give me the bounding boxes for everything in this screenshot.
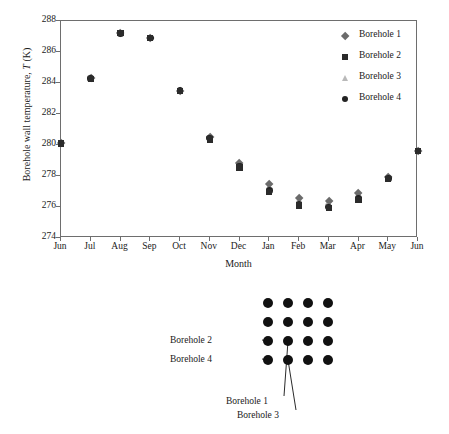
y-tick-label: 286	[30, 46, 56, 56]
borehole-dot	[283, 317, 293, 327]
legend-item-3: Borehole 3	[340, 68, 440, 89]
legend-label: Borehole 2	[359, 50, 401, 60]
triangle-icon	[342, 75, 348, 81]
borehole-dot	[323, 355, 333, 365]
y-tick-label: 282	[30, 108, 56, 118]
y-tick-label: 288	[30, 15, 56, 25]
legend-item-2: Borehole 2	[340, 47, 440, 68]
square-marker	[385, 176, 391, 182]
borehole-layout-diagram: Borehole 2Borehole 4Borehole 1Borehole 3	[0, 285, 449, 434]
legend-label: Borehole 1	[359, 29, 401, 39]
square-icon	[342, 54, 348, 60]
callout-label: Borehole 4	[170, 354, 212, 364]
borehole-dot	[323, 317, 333, 327]
square-marker	[326, 205, 332, 211]
x-tick-label: Jun	[397, 241, 437, 251]
square-marker	[147, 35, 153, 41]
x-axis-title: Month	[60, 258, 417, 269]
square-marker	[415, 148, 421, 154]
square-marker	[207, 136, 213, 142]
borehole-dot	[263, 317, 273, 327]
y-tick-label: 278	[30, 170, 56, 180]
circle-icon	[342, 96, 349, 103]
borehole-dot	[263, 298, 273, 308]
borehole-temperature-chart: Borehole wall temperature, T (K) 2742762…	[0, 0, 449, 285]
borehole-dot	[303, 317, 313, 327]
legend-label: Borehole 3	[359, 71, 401, 81]
square-marker	[355, 197, 361, 203]
legend-label: Borehole 4	[359, 92, 401, 102]
legend-item-1: Borehole 1	[340, 26, 440, 47]
square-marker	[177, 88, 183, 94]
borehole-dot	[323, 336, 333, 346]
borehole-dot	[263, 355, 273, 365]
legend-item-4: Borehole 4	[340, 89, 440, 110]
borehole-dot	[303, 355, 313, 365]
borehole-dot	[283, 336, 293, 346]
square-marker	[117, 30, 123, 36]
callout-label: Borehole 2	[170, 335, 212, 345]
borehole-dot	[303, 336, 313, 346]
borehole-dot	[323, 298, 333, 308]
square-marker	[88, 76, 94, 82]
square-marker	[236, 164, 242, 170]
leader-line	[288, 360, 296, 410]
y-tick-label: 276	[30, 201, 56, 211]
square-marker	[58, 140, 64, 146]
square-marker	[266, 189, 272, 195]
borehole-dot	[263, 336, 273, 346]
square-marker	[296, 202, 302, 208]
chart-legend: Borehole 1Borehole 2Borehole 3Borehole 4	[340, 26, 440, 110]
diamond-icon	[340, 31, 349, 40]
leader-line	[284, 341, 288, 396]
borehole-dot	[283, 298, 293, 308]
borehole-dot	[283, 355, 293, 365]
callout-label: Borehole 3	[237, 410, 279, 420]
callout-label: Borehole 1	[226, 396, 268, 406]
y-tick-label: 280	[30, 139, 56, 149]
callout-leader-lines	[0, 285, 449, 434]
y-tick-label: 284	[30, 77, 56, 87]
borehole-dot	[303, 298, 313, 308]
